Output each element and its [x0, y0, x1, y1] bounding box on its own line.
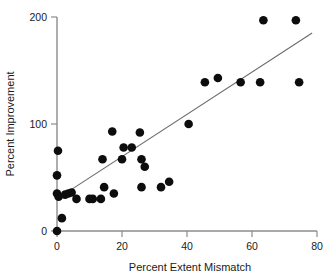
- x-axis-ticks: [57, 231, 317, 237]
- data-point: [292, 16, 301, 25]
- data-point: [58, 214, 67, 223]
- data-point: [295, 78, 304, 87]
- data-point: [136, 128, 145, 137]
- data-point: [214, 74, 223, 83]
- x-tick-label: 60: [246, 240, 258, 252]
- data-point: [137, 155, 146, 164]
- x-tick-label: 80: [311, 240, 323, 252]
- data-point: [88, 195, 97, 204]
- x-tick-label: 20: [116, 240, 128, 252]
- x-axis-title: Percent Extent Mismatch: [129, 261, 251, 273]
- data-point: [53, 227, 62, 236]
- data-point: [140, 163, 149, 172]
- x-axis-tick-labels: 020406080: [54, 240, 323, 252]
- data-point: [201, 78, 210, 87]
- x-tick-label: 0: [54, 240, 60, 252]
- y-axis-tick-labels: 0100200: [29, 11, 47, 237]
- y-tick-label: 200: [29, 11, 47, 23]
- data-point: [53, 171, 62, 180]
- data-point: [54, 146, 63, 155]
- data-point: [184, 120, 193, 129]
- data-point: [256, 78, 265, 87]
- data-point-group: [53, 16, 304, 235]
- data-point: [72, 195, 81, 204]
- data-point: [110, 189, 119, 198]
- data-point: [127, 143, 136, 152]
- data-point: [100, 183, 109, 192]
- y-tick-label: 100: [29, 118, 47, 130]
- data-point: [108, 127, 117, 136]
- data-point: [119, 143, 128, 152]
- data-point: [118, 155, 127, 164]
- data-point: [236, 78, 245, 87]
- regression-line: [57, 33, 312, 199]
- x-tick-label: 40: [181, 240, 193, 252]
- data-point: [259, 16, 268, 25]
- data-point: [165, 177, 174, 186]
- data-point: [97, 195, 106, 204]
- scatter-plot-figure: 0100200 020406080 Percent Extent Mismatc…: [0, 0, 331, 279]
- data-point: [137, 183, 146, 192]
- y-axis-title: Percent Improvement: [4, 71, 16, 176]
- y-tick-label: 0: [41, 225, 47, 237]
- data-point: [157, 183, 166, 192]
- data-point: [98, 155, 107, 164]
- plot-canvas: 0100200 020406080 Percent Extent Mismatc…: [0, 0, 331, 279]
